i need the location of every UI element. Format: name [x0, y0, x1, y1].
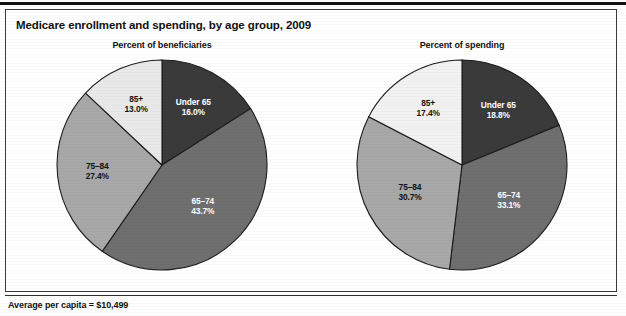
chart-title-spending: Percent of spending	[312, 40, 612, 50]
pie-slice-category-label: 85+	[129, 94, 143, 104]
pie-slice-category-label: 75–84	[399, 182, 422, 192]
pie-slice-value-label: 13.0%	[125, 104, 149, 114]
pie-svg-spending: Under 6518.8%65–7433.1%75–8430.7%85+17.4…	[354, 57, 570, 273]
pie-slice-category-label: Under 65	[481, 100, 516, 110]
pie-slice-category-label: 65–74	[497, 190, 520, 200]
pie-slice-value-label: 33.1%	[497, 200, 521, 210]
pie-slice-category-label: 85+	[421, 98, 435, 108]
pie-slice-value-label: 43.7%	[191, 206, 215, 216]
page-title: Medicare enrollment and spending, by age…	[16, 19, 311, 31]
top-divider-rule	[0, 2, 626, 5]
pie-slice-category-label: 75–84	[86, 161, 109, 171]
pie-slice-value-label: 16.0%	[182, 107, 206, 117]
chart-title-beneficiaries: Percent of beneficiaries	[12, 40, 312, 50]
pie-chart-beneficiaries: Under 6516.0%65–7443.7%75–8427.4%85+13.0…	[54, 57, 270, 273]
pie-slices-spending	[357, 60, 567, 270]
pie-slice-category-label: Under 65	[176, 97, 211, 107]
pie-slice-value-label: 30.7%	[398, 192, 422, 202]
chart-panel-beneficiaries: Percent of beneficiaries Under 6516.0%65…	[12, 40, 312, 288]
pie-slice-value-label: 17.4%	[417, 108, 441, 118]
figure-container: Medicare enrollment and spending, by age…	[5, 9, 617, 292]
footnote-text: Average per capita = $10,499	[8, 300, 128, 310]
pie-svg-beneficiaries: Under 6516.0%65–7443.7%75–8427.4%85+13.0…	[54, 57, 270, 273]
pie-chart-spending: Under 6518.8%65–7433.1%75–8430.7%85+17.4…	[354, 57, 570, 273]
pie-slice-value-label: 18.8%	[487, 110, 511, 120]
chart-panel-spending: Percent of spending Under 6518.8%65–7433…	[312, 40, 612, 288]
pie-slice-category-label: 65–74	[191, 196, 214, 206]
footnote-divider-rule	[5, 295, 617, 296]
pie-slice-value-label: 27.4%	[86, 171, 110, 181]
